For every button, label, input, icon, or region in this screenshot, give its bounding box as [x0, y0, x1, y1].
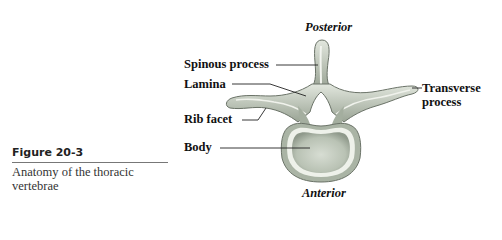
spinous-process-shape: [312, 40, 330, 88]
figure-caption-text: Anatomy of the thoracic vertebrae: [12, 165, 170, 193]
label-lamina: Lamina: [184, 77, 226, 92]
label-body: Body: [184, 140, 212, 155]
label-transverse-line2: process: [422, 95, 461, 110]
caption-divider: [12, 162, 168, 163]
label-transverse-line1: Transverse: [422, 81, 481, 96]
leader-rib-facet: [242, 108, 266, 120]
label-spinous-process: Spinous process: [184, 57, 269, 72]
label-rib-facet: Rib facet: [184, 112, 232, 127]
orientation-anterior: Anterior: [302, 186, 346, 201]
orientation-posterior: Posterior: [305, 20, 352, 35]
lamina-transverse-shape: [226, 84, 418, 124]
vertebral-body-shape: [281, 123, 360, 182]
figure-caption: Figure 20-3 Anatomy of the thoracic vert…: [12, 146, 170, 193]
figure-number: Figure 20-3: [12, 146, 170, 159]
